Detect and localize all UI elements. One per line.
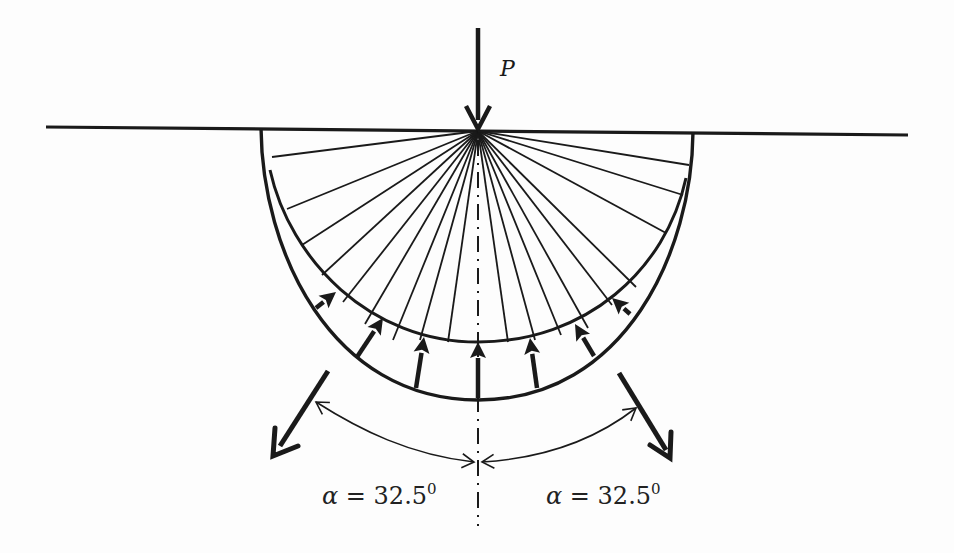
radial-line (478, 131, 612, 305)
reaction-arrow-icon (357, 318, 383, 357)
radial-line (478, 131, 561, 335)
reaction-arrow-icon (524, 338, 540, 388)
angle-arc-left (316, 402, 474, 462)
radial-line (322, 131, 478, 275)
angle-label-left: α = 32.50 (322, 480, 437, 510)
radial-line (478, 131, 636, 287)
reaction-arrow-icon (470, 342, 486, 398)
angle-label-right: α = 32.50 (546, 480, 661, 510)
reaction-arrow-icon (316, 292, 336, 308)
reaction-arrow-icon (612, 298, 630, 315)
angle-arc-right (482, 408, 636, 462)
radial-line (365, 131, 478, 324)
reaction-arrow-icon (414, 337, 430, 388)
bearing-capacity-diagram: P α = 32.50 α = 32.50 (0, 0, 954, 553)
radial-line (478, 131, 535, 340)
radial-line (393, 131, 478, 340)
load-label: P (499, 56, 516, 81)
load-arrow (466, 28, 490, 129)
reaction-arrow-icon (575, 324, 594, 356)
outward-arrow-left (273, 371, 328, 456)
